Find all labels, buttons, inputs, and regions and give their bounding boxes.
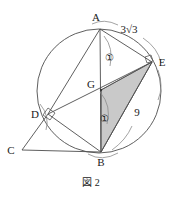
circumscribed-circle xyxy=(37,29,161,153)
point-label-a: A xyxy=(92,11,100,23)
circled-one-upper: ① xyxy=(105,52,114,63)
vertex-dot-g xyxy=(100,89,102,91)
segment-db xyxy=(48,114,101,152)
point-label-d: D xyxy=(31,108,39,120)
geometry-canvas: A B C D E G 3√3 9 ① ① 図 2 xyxy=(0,0,177,200)
segment-cb xyxy=(22,150,101,152)
point-label-e: E xyxy=(159,56,166,68)
point-label-b: B xyxy=(97,156,104,168)
circled-one-lower: ① xyxy=(100,113,109,124)
figure-caption: 図 2 xyxy=(82,177,100,188)
geometry-figure: A B C D E G 3√3 9 ① ① 図 2 xyxy=(0,0,177,200)
point-label-g: G xyxy=(87,78,95,90)
label-3root3: 3√3 xyxy=(120,23,138,35)
annotation-arc-b-right xyxy=(112,126,132,150)
label-9: 9 xyxy=(134,106,140,118)
point-label-c: C xyxy=(7,144,14,156)
